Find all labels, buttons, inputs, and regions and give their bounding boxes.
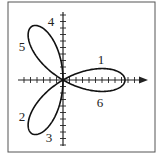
petal-label-4: 4: [48, 14, 55, 29]
petal-label-5: 5: [19, 39, 26, 54]
x-axis-arrow-icon: [139, 77, 148, 84]
polar-rose-diagram: 164523: [0, 0, 161, 158]
petal-label-1: 1: [98, 52, 105, 67]
x-axis: [18, 77, 148, 84]
petal-label-3: 3: [46, 130, 53, 145]
petal-label-6: 6: [97, 95, 104, 110]
petal-label-2: 2: [19, 109, 26, 124]
